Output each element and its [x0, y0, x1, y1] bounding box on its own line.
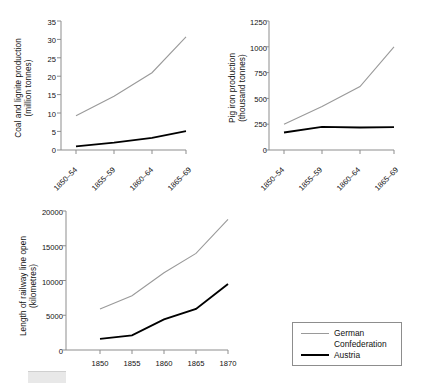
legend-item-austria: Austria: [301, 350, 360, 361]
legend-line-swatch-austria: [301, 354, 329, 356]
legend-label-german-confederation-line2: Confederation: [334, 339, 387, 349]
legend-line-swatch-german-confederation: [301, 333, 329, 334]
chart3-series-austria: [100, 284, 228, 339]
chart2-series-german-confederation: [284, 47, 394, 124]
legend-label-austria: Austria: [334, 350, 360, 361]
chart-panel-coal-and-lignite: Coal and lignite production (million ton…: [0, 0, 215, 200]
legend-label-german-confederation: German Confederation: [334, 328, 387, 349]
bottom-left-corner-mark: [28, 371, 66, 383]
chart1-series-german-confederation: [76, 37, 186, 116]
legend-item-german-confederation: German Confederation: [301, 328, 387, 349]
legend-label-german-confederation-line1: German: [334, 328, 364, 338]
chart1-series-austria: [76, 131, 186, 146]
legend: German Confederation Austria: [292, 322, 402, 366]
chart3-plot-area: [0, 198, 280, 384]
chart-panel-railway-line-open: Length of railway line open (kilometres)…: [0, 198, 280, 384]
chart3-series-german-confederation: [100, 219, 228, 309]
chart-panel-pig-iron: Pig iron production (thousand tonnes) 12…: [213, 0, 431, 200]
chart2-series-austria: [284, 127, 394, 133]
chart2-plot-area: [213, 0, 431, 200]
chart1-plot-area: [0, 0, 215, 200]
